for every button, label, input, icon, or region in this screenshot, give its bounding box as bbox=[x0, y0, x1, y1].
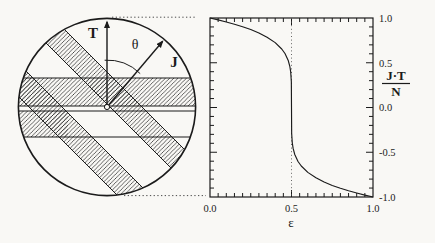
y-tick-label: 0.5 bbox=[379, 58, 392, 69]
y-tick-label: -0.5 bbox=[379, 147, 396, 158]
theta-label: θ bbox=[132, 37, 139, 52]
t-label: T bbox=[88, 25, 98, 41]
y-axis-label-fraction: J·T N bbox=[382, 68, 410, 99]
figure-svg: T θ J 0.00.51.01.00.50.0-0.5-1.0 J·T N ε bbox=[0, 0, 435, 243]
y-tick-label: 1.0 bbox=[379, 13, 392, 24]
y-axis-label-denominator: N bbox=[391, 84, 401, 99]
x-tick-label: 0.0 bbox=[203, 203, 216, 214]
x-axis-label: ε bbox=[288, 215, 294, 230]
order-parameter-plot: 0.00.51.01.00.50.0-0.5-1.0 J·T N ε bbox=[203, 13, 410, 230]
physics-figure: T θ J 0.00.51.01.00.50.0-0.5-1.0 J·T N ε bbox=[0, 0, 435, 243]
theta-arc bbox=[105, 60, 141, 73]
x-tick-label: 0.5 bbox=[285, 203, 298, 214]
y-axis-label-numerator: J·T bbox=[386, 68, 406, 83]
x-tick-label: 1.0 bbox=[366, 203, 379, 214]
y-tick-label: -1.0 bbox=[379, 192, 396, 203]
plot-dynamic-layer: 0.00.51.01.00.50.0-0.5-1.0 bbox=[203, 13, 395, 214]
disk-diagram: T θ J bbox=[0, 0, 240, 237]
center-pivot bbox=[104, 104, 109, 109]
y-tick-label: 0.0 bbox=[379, 102, 392, 113]
j-label: J bbox=[170, 54, 178, 70]
